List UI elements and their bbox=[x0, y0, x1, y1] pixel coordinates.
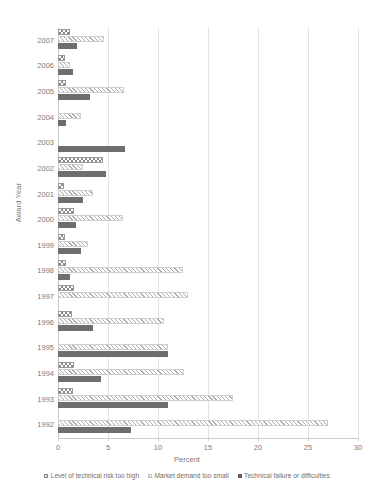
x-axis-title: Percent bbox=[0, 455, 374, 464]
y-axis-title: Award Year bbox=[14, 163, 23, 243]
y-tick-label-1999: 1999 bbox=[0, 241, 54, 250]
bar-risk-2005 bbox=[58, 80, 66, 86]
bar-failure-1999 bbox=[58, 248, 81, 254]
year-row: 2001 bbox=[58, 182, 358, 208]
bar-demand-1998 bbox=[58, 267, 183, 273]
bar-failure-2007 bbox=[58, 43, 77, 49]
bar-demand-2001 bbox=[58, 190, 93, 196]
x-tick-mark-30 bbox=[358, 438, 359, 441]
bar-rows: 2007200620052004200320022001200019991998… bbox=[58, 28, 358, 438]
x-tick-label-30: 30 bbox=[343, 443, 373, 452]
bar-failure-1992 bbox=[58, 427, 131, 433]
bar-failure-1995 bbox=[58, 351, 168, 357]
year-row: 1992 bbox=[58, 412, 358, 438]
year-row: 2005 bbox=[58, 79, 358, 105]
legend-item-failure[interactable]: Technical failure or difficulties bbox=[238, 472, 330, 479]
bar-risk-2007 bbox=[58, 29, 70, 35]
x-tick-mark-5 bbox=[108, 438, 109, 441]
bar-risk-1994 bbox=[58, 362, 74, 368]
y-tick-label-1996: 1996 bbox=[0, 318, 54, 327]
bar-risk-2002 bbox=[58, 157, 103, 163]
y-tick-label-1997: 1997 bbox=[0, 292, 54, 301]
x-tick-label-10: 10 bbox=[143, 443, 173, 452]
gridline-30 bbox=[358, 28, 359, 438]
plot-area: 2007200620052004200320022001200019991998… bbox=[58, 28, 358, 438]
legend-swatch-failure-icon bbox=[238, 474, 242, 478]
year-row: 1996 bbox=[58, 310, 358, 336]
bar-demand-1997 bbox=[58, 292, 188, 298]
bar-demand-1995 bbox=[58, 344, 168, 350]
y-tick-label-1993: 1993 bbox=[0, 395, 54, 404]
y-tick-label-1995: 1995 bbox=[0, 343, 54, 352]
bar-failure-2003 bbox=[58, 146, 125, 152]
chart-legend: Level of technical risk too highMarket d… bbox=[0, 472, 374, 479]
y-tick-label-1992: 1992 bbox=[0, 420, 54, 429]
bar-demand-2002 bbox=[58, 164, 83, 170]
x-tick-mark-15 bbox=[208, 438, 209, 441]
x-tick-mark-20 bbox=[258, 438, 259, 441]
x-tick-mark-25 bbox=[308, 438, 309, 441]
y-tick-label-2000: 2000 bbox=[0, 215, 54, 224]
x-tick-label-5: 5 bbox=[93, 443, 123, 452]
bar-failure-1996 bbox=[58, 325, 93, 331]
x-tick-label-15: 15 bbox=[193, 443, 223, 452]
bar-failure-2004 bbox=[58, 120, 66, 126]
year-row: 1998 bbox=[58, 259, 358, 285]
year-row: 2007 bbox=[58, 28, 358, 54]
bar-demand-1993 bbox=[58, 395, 233, 401]
bar-risk-1993 bbox=[58, 388, 73, 394]
x-tick-label-0: 0 bbox=[43, 443, 73, 452]
bar-risk-2001 bbox=[58, 183, 64, 189]
bar-failure-2001 bbox=[58, 197, 83, 203]
bar-demand-2005 bbox=[58, 87, 124, 93]
year-row: 1994 bbox=[58, 361, 358, 387]
year-row: 1997 bbox=[58, 284, 358, 310]
bar-demand-2007 bbox=[58, 36, 104, 42]
bar-demand-1996 bbox=[58, 318, 164, 324]
bar-risk-1996 bbox=[58, 311, 72, 317]
bar-demand-2006 bbox=[58, 62, 70, 68]
x-tick-label-20: 20 bbox=[243, 443, 273, 452]
year-row: 1995 bbox=[58, 336, 358, 362]
legend-label-risk: Level of technical risk too high bbox=[51, 472, 139, 479]
y-tick-label-2002: 2002 bbox=[0, 164, 54, 173]
year-row: 2003 bbox=[58, 131, 358, 157]
year-row: 2004 bbox=[58, 105, 358, 131]
legend-label-demand: Market demand too small bbox=[155, 472, 229, 479]
bar-demand-1992 bbox=[58, 420, 328, 426]
y-tick-label-2003: 2003 bbox=[0, 138, 54, 147]
x-tick-mark-10 bbox=[158, 438, 159, 441]
y-tick-label-2006: 2006 bbox=[0, 61, 54, 70]
legend-swatch-risk-icon bbox=[44, 474, 48, 478]
year-row: 2002 bbox=[58, 156, 358, 182]
bar-failure-1994 bbox=[58, 376, 101, 382]
year-row: 2006 bbox=[58, 54, 358, 80]
bar-failure-2005 bbox=[58, 94, 90, 100]
bar-failure-1993 bbox=[58, 402, 168, 408]
y-tick-label-2004: 2004 bbox=[0, 113, 54, 122]
legend-item-risk[interactable]: Level of technical risk too high bbox=[44, 472, 139, 479]
year-row: 1993 bbox=[58, 387, 358, 413]
bar-demand-1994 bbox=[58, 369, 184, 375]
x-tick-mark-0 bbox=[58, 438, 59, 441]
y-tick-label-2007: 2007 bbox=[0, 36, 54, 45]
bar-failure-2000 bbox=[58, 222, 76, 228]
bar-failure-2006 bbox=[58, 69, 73, 75]
y-tick-label-1994: 1994 bbox=[0, 369, 54, 378]
bar-risk-2006 bbox=[58, 55, 65, 61]
year-row: 1999 bbox=[58, 233, 358, 259]
bar-demand-2000 bbox=[58, 215, 123, 221]
bar-risk-1997 bbox=[58, 285, 74, 291]
bar-demand-1999 bbox=[58, 241, 88, 247]
bar-risk-2000 bbox=[58, 208, 74, 214]
bar-demand-2004 bbox=[58, 113, 81, 119]
legend-label-failure: Technical failure or difficulties bbox=[244, 472, 330, 479]
bar-failure-2002 bbox=[58, 171, 106, 177]
bar-failure-1998 bbox=[58, 274, 70, 280]
x-tick-label-25: 25 bbox=[293, 443, 323, 452]
y-tick-label-2001: 2001 bbox=[0, 190, 54, 199]
y-tick-label-2005: 2005 bbox=[0, 87, 54, 96]
horizontal-bar-chart: Award Year 20072006200520042003200220012… bbox=[0, 0, 374, 497]
legend-item-demand[interactable]: Market demand too small bbox=[148, 472, 229, 479]
bar-risk-1998 bbox=[58, 260, 66, 266]
